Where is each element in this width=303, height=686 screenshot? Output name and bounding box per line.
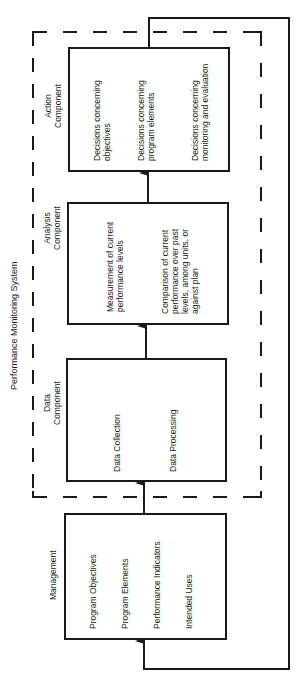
analysis-item-2-line3: levels, among units, or xyxy=(180,229,190,314)
action-item-program-elements: Decisions concerning program elements xyxy=(136,80,156,161)
data-item-collection: Data Collection xyxy=(112,414,122,472)
analysis-item-comparison: Comparison of current performance over p… xyxy=(160,229,200,314)
system-title: Performance Monitoring System xyxy=(9,261,19,390)
analysis-item-1-line1: Measurement of current xyxy=(105,222,115,312)
action-component-box: Decisions concerning objectives Decision… xyxy=(68,47,230,172)
action-item-objectives: Decisions concerning objectives xyxy=(92,80,112,161)
action-item-3-line1: Decisions concerning xyxy=(190,64,200,161)
action-item-1-line1: Decisions concerning xyxy=(92,80,102,161)
analysis-component-label: Analysis Component xyxy=(42,206,62,250)
data-label-line1: Data xyxy=(42,381,52,425)
data-label-line2: Component xyxy=(52,381,62,425)
analysis-label-line2: Component xyxy=(52,206,62,250)
management-item-program-elements: Program Elements xyxy=(120,559,130,629)
data-component-label: Data Component xyxy=(42,381,62,425)
analysis-label-line1: Analysis xyxy=(42,206,52,250)
action-item-monitoring: Decisions concerning monitoring and eval… xyxy=(190,64,210,161)
analysis-item-1-line2: performance levels xyxy=(115,222,125,312)
analysis-item-2-line2: performance over past xyxy=(170,229,180,314)
management-item-program-objectives: Program Objectives xyxy=(88,554,98,629)
data-item-processing: Data Processing xyxy=(168,410,178,472)
action-item-1-line2: objectives xyxy=(102,80,112,161)
analysis-item-2-line4: against plan xyxy=(190,229,200,314)
action-item-2-line2: program elements xyxy=(146,80,156,161)
management-label: Management xyxy=(48,550,58,600)
management-box: Program Objectives Program Elements Perf… xyxy=(64,513,227,640)
analysis-item-measurement: Measurement of current performance level… xyxy=(105,222,125,312)
management-item-intended-uses: Intended Uses xyxy=(184,574,194,629)
action-label-line1: Action xyxy=(43,84,53,128)
data-component-box: Data Collection Data Processing xyxy=(66,358,227,482)
action-item-3-line2: monitoring and evaluation xyxy=(200,64,210,161)
action-component-label: Action Component xyxy=(43,84,63,128)
analysis-component-box: Measurement of current performance level… xyxy=(67,202,229,325)
management-item-performance-indicators: Performance Indicators xyxy=(152,541,162,629)
analysis-item-2-line1: Comparison of current xyxy=(160,229,170,314)
action-item-2-line1: Decisions concerning xyxy=(136,80,146,161)
action-label-line2: Component xyxy=(53,84,63,128)
